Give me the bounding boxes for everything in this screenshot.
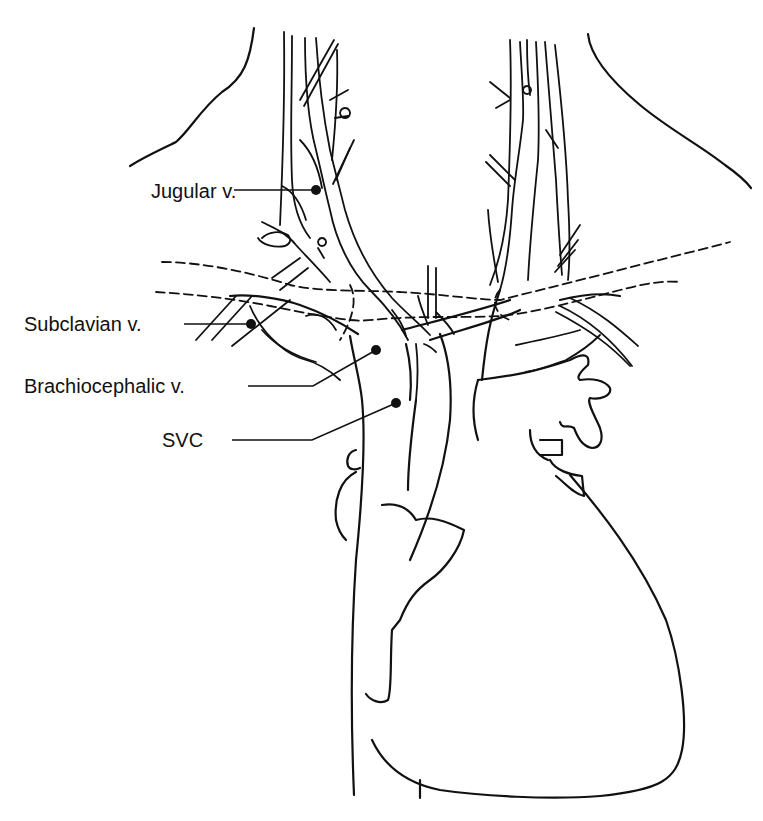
svc-marker-dot [391, 398, 401, 408]
right-subclavian-region [516, 294, 638, 372]
label-jugular-vein: Jugular v. [151, 181, 236, 201]
label-svc: SVC [162, 430, 203, 450]
venous-anatomy-drawing [0, 0, 763, 821]
anatomy-figure: Jugular v. Subclavian v. Brachiocephalic… [0, 0, 763, 821]
brachiocephalic-marker-dot [371, 345, 381, 355]
clavicle-dashed-outlines [156, 242, 730, 340]
body-outline [130, 28, 751, 188]
svc-leader-line [232, 403, 396, 440]
left-jugular-veins [258, 32, 430, 340]
jugular-marker-dot [311, 185, 321, 195]
label-subclavian-vein: Subclavian v. [24, 314, 141, 334]
subclavian-marker-dot [246, 319, 256, 329]
leader-lines [184, 185, 401, 440]
right-jugular-veins [486, 40, 580, 290]
label-brachiocephalic-vein: Brachiocephalic v. [24, 376, 185, 396]
left-subclavian-region [196, 295, 358, 380]
